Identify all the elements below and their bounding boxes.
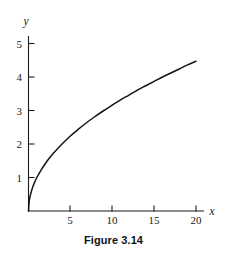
x-tick-label-5: 5 [67, 214, 73, 226]
figure-caption: Figure 3.14 [0, 234, 227, 246]
figure-page: 5 4 3 2 1 5 10 15 20 y x Figure 3.14 [0, 0, 227, 260]
plot-area: 5 4 3 2 1 5 10 15 20 y x [0, 0, 227, 260]
x-tick-label-15: 15 [149, 214, 161, 226]
x-tick-label-10: 10 [107, 214, 119, 226]
y-tick-label-3: 3 [17, 105, 23, 117]
y-tick-label-1: 1 [17, 172, 23, 184]
x-axis-label: x [208, 205, 215, 217]
y-tick-label-4: 4 [17, 71, 23, 83]
x-tick-label-20: 20 [191, 214, 203, 226]
y-axis-label: y [22, 15, 29, 28]
sqrt-curve [29, 61, 197, 211]
y-tick-label-5: 5 [17, 38, 23, 50]
y-tick-label-2: 2 [17, 138, 23, 150]
